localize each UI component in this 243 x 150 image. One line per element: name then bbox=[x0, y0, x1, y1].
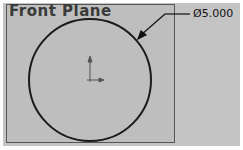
origin-axes-icon bbox=[87, 56, 104, 82]
diameter-dimension[interactable]: Ø5.000 bbox=[193, 7, 233, 20]
sketch-canvas bbox=[0, 0, 243, 150]
dimension-leader bbox=[138, 14, 190, 39]
